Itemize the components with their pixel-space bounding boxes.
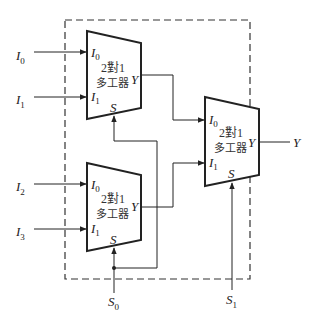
svg-text:多工器: 多工器 (96, 76, 129, 90)
label-i0: I0 (15, 48, 25, 66)
svg-text:多工器: 多工器 (96, 207, 129, 221)
svg-text:S: S (110, 232, 117, 247)
svg-text:S: S (228, 166, 235, 181)
svg-text:2對1: 2對1 (101, 61, 125, 75)
label-i1: I1 (15, 92, 25, 110)
svg-text:S: S (110, 100, 117, 115)
label-i2: I2 (15, 179, 25, 197)
label-y-out: Y (293, 135, 302, 150)
svg-text:多工器: 多工器 (214, 141, 247, 155)
label-i3: I3 (15, 224, 25, 242)
wire-top-out (141, 75, 204, 120)
label-s0: S0 (108, 294, 120, 312)
mux-diagram: I0 I1 I2 I3 S0 S1 Y I0 2對1 多工器 Y I1 S I0… (0, 0, 310, 321)
svg-text:2對1: 2對1 (101, 192, 125, 206)
svg-text:2對1: 2對1 (219, 126, 243, 140)
junction-dot (112, 266, 116, 270)
label-s1: S1 (226, 292, 237, 310)
wire-bottom-out (141, 163, 204, 207)
